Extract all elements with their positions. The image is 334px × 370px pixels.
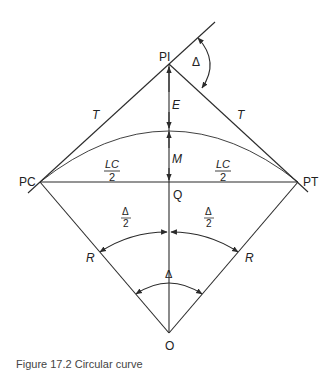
label-tangent-right: T	[237, 108, 246, 122]
label-half-chord-right-den: 2	[220, 171, 226, 183]
back-tangent-line	[28, 22, 215, 193]
half-delta-arc-right	[171, 232, 238, 252]
label-o: O	[165, 339, 174, 353]
label-half-chord-left-num: LC	[105, 158, 119, 170]
label-half-delta-left-num: Δ	[122, 206, 129, 217]
radius-right-line	[169, 182, 298, 333]
label-middle-ordinate: M	[172, 152, 182, 166]
forward-tangent-line	[169, 64, 308, 192]
label-q: Q	[173, 188, 182, 202]
half-delta-arc-left	[100, 232, 167, 252]
label-half-chord-right-num: LC	[216, 158, 230, 170]
label-radius-right: R	[245, 251, 254, 265]
label-radius-left: R	[86, 251, 95, 265]
label-half-delta-right-den: 2	[206, 218, 212, 229]
radius-left-line	[40, 182, 169, 333]
label-pt: PT	[303, 175, 319, 189]
label-half-delta-right-num: Δ	[205, 206, 212, 217]
label-half-delta-left-den: 2	[123, 218, 129, 229]
label-pc: PC	[19, 175, 36, 189]
label-external: E	[172, 98, 181, 112]
label-tangent-left: T	[92, 108, 101, 122]
label-delta-pi: Δ	[192, 55, 200, 69]
label-half-chord-left-den: 2	[109, 171, 115, 183]
figure-caption: Figure 17.2 Circular curve	[16, 358, 143, 370]
label-pi: PI	[159, 50, 170, 64]
label-central-angle: Δ	[165, 268, 173, 280]
